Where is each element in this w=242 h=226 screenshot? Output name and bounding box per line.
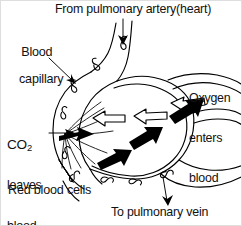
- label-red-blood-cells: Red blood cells: [8, 184, 91, 198]
- co2-arrow: [59, 127, 94, 141]
- label-blood-capillary: Blood capillary: [8, 32, 63, 114]
- label-oxygen-line2: enters: [189, 132, 231, 145]
- label-oxygen-line1: Oxygen: [189, 92, 231, 105]
- label-oxygen-enters-blood: Oxygen enters blood: [189, 65, 231, 212]
- label-blood-capillary-line1: Blood: [21, 45, 52, 59]
- label-co2-symbol: CO: [7, 137, 27, 152]
- red-blood-cells-group: [60, 36, 174, 186]
- label-co2-subscript: 2: [27, 141, 32, 152]
- label-co2-line3: blood: [7, 220, 42, 226]
- oxygen-arrow: [134, 109, 167, 124]
- oxygen-arrow: [93, 111, 125, 126]
- label-blood-capillary-line2: capillary: [8, 73, 63, 87]
- rbc-leader-line-2: [59, 160, 73, 182]
- red-blood-cell: [100, 175, 114, 184]
- co2-arrows-group: [59, 99, 204, 170]
- label-to-pulmonary-vein: To pulmonary vein: [111, 206, 208, 219]
- gas-exchange-figure: From pulmonary artery(heart) Blood capil…: [0, 0, 242, 226]
- co2-arrow: [97, 149, 132, 170]
- label-co2-leaves-blood: CO2 leaves blood: [7, 111, 42, 226]
- label-oxygen-line3: blood: [189, 172, 231, 185]
- label-co2-formula: CO2: [7, 138, 42, 153]
- co2-arrow: [129, 127, 163, 150]
- label-from-pulmonary-artery: From pulmonary artery(heart): [55, 3, 211, 16]
